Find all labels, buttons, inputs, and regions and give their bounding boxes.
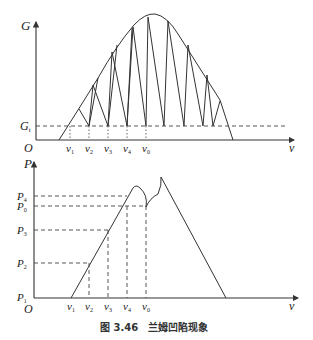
g-tick-v0: ν0 — [142, 142, 150, 155]
power-chart: P P4 P0 P3 P2 P1 O ν ν1 ν2 ν3 ν4 ν0 — [16, 156, 298, 316]
p-tick-v2: ν2 — [85, 300, 93, 313]
g-tick-v1: ν1 — [66, 142, 74, 155]
p-tick-v4: ν4 — [123, 300, 131, 313]
hole-burning-zigzag — [79, 17, 220, 126]
g-tick-v2: ν2 — [85, 142, 93, 155]
p-tick-v3: ν3 — [104, 300, 112, 313]
gain-chart: G Gt O ν ν1 ν2 ν3 ν4 ν0 — [20, 14, 295, 155]
figure-title: 兰姆凹陷现象 — [148, 321, 208, 333]
p3-label: P3 — [16, 224, 27, 237]
gt-label: Gt — [20, 119, 31, 134]
hole-line-3 — [108, 45, 117, 126]
p-tick-v1: ν1 — [67, 300, 75, 313]
g-origin-label: O — [24, 141, 33, 155]
g-tick-v3: ν3 — [104, 142, 112, 155]
figure-number: 图 3.46 — [100, 322, 138, 333]
g-x-axis-label: ν — [289, 141, 295, 155]
power-curve — [71, 177, 226, 298]
p-axis-label: P — [23, 156, 32, 171]
p-tick-v0: ν0 — [142, 300, 150, 313]
p-x-axis-label: ν — [289, 299, 295, 313]
g-axis-label: G — [21, 18, 31, 33]
g-tick-v4: ν4 — [123, 142, 131, 155]
lamb-dip-diagram: G Gt O ν ν1 ν2 ν3 ν4 ν0 P P4 P0 P3 P2 P1… — [0, 0, 313, 340]
hole-line-4 — [127, 28, 132, 126]
p-origin-label: O — [24, 302, 33, 316]
p2-label: P2 — [16, 257, 27, 270]
